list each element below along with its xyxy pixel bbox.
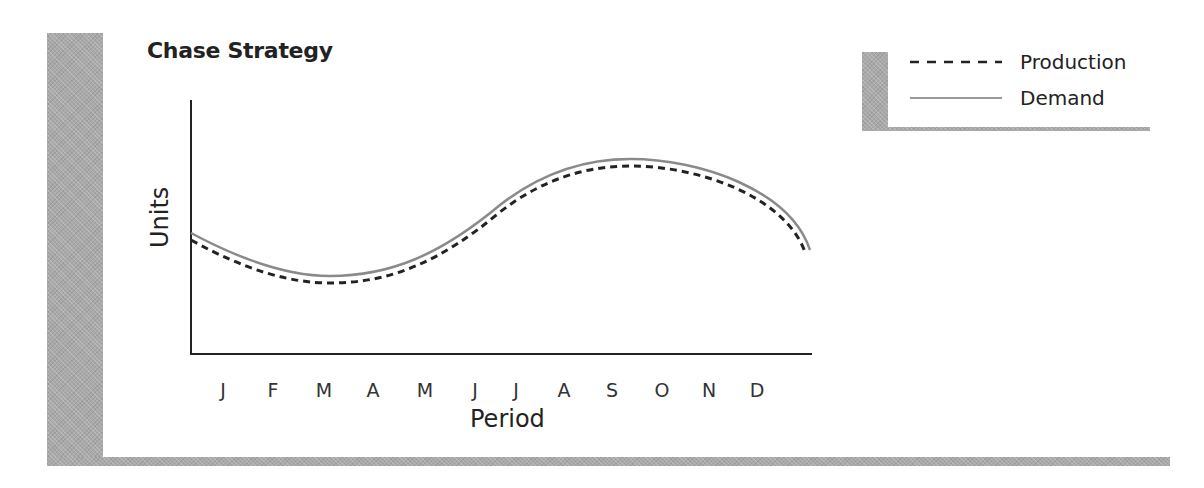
legend-production-label: Production (1020, 50, 1126, 74)
legend-demand-label: Demand (1020, 86, 1105, 110)
demand-line (191, 159, 810, 276)
x-tick: M (410, 379, 440, 401)
x-tick: J (460, 379, 490, 401)
x-tick: F (258, 379, 288, 401)
x-tick: S (597, 379, 627, 401)
x-tick: O (647, 379, 677, 401)
x-axis-label: Period (470, 405, 545, 433)
y-axis-label: Units (146, 187, 174, 248)
x-tick: D (742, 379, 772, 401)
x-tick: M (309, 379, 339, 401)
x-tick: J (208, 379, 238, 401)
production-line (191, 166, 805, 283)
x-tick: J (501, 379, 531, 401)
x-tick: A (358, 379, 388, 401)
x-tick: N (694, 379, 724, 401)
x-tick: A (549, 379, 579, 401)
